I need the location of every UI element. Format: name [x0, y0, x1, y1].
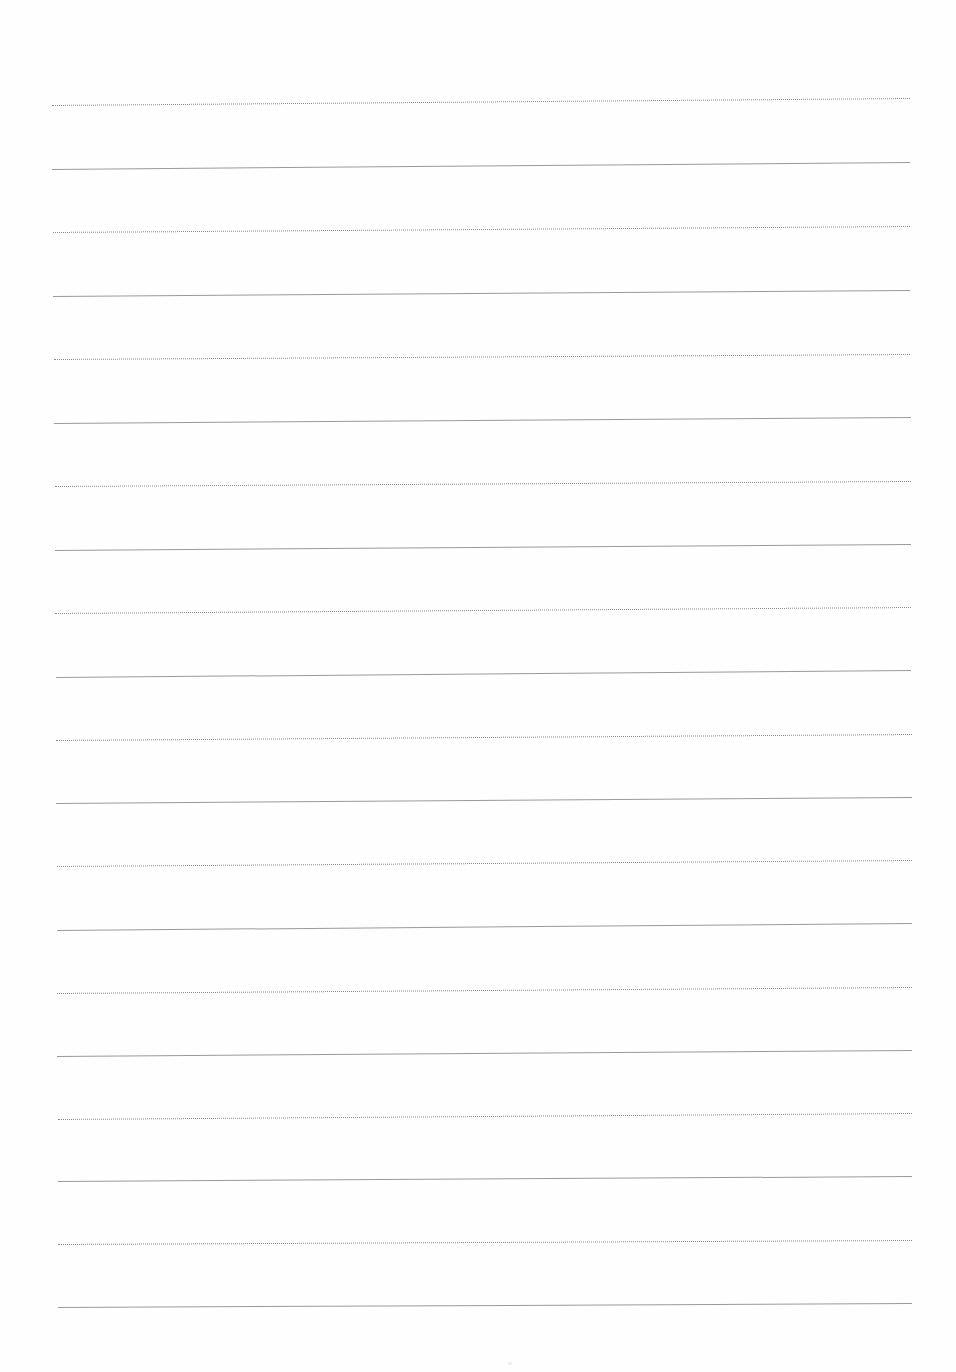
- paper-speck: [508, 1362, 512, 1365]
- dotted-ruled-line: [55, 607, 911, 614]
- solid-ruled-line: [56, 797, 912, 804]
- lined-paper-page: [0, 0, 956, 1372]
- solid-ruled-line: [58, 1176, 912, 1182]
- dotted-ruled-line: [57, 987, 912, 994]
- solid-ruled-line: [53, 290, 910, 297]
- solid-ruled-line: [55, 544, 911, 551]
- solid-ruled-line: [52, 162, 910, 170]
- dotted-ruled-line: [52, 98, 910, 106]
- solid-ruled-line: [58, 1303, 912, 1308]
- dotted-ruled-line: [56, 734, 912, 741]
- dotted-ruled-line: [53, 226, 910, 233]
- solid-ruled-line: [56, 670, 911, 678]
- dotted-ruled-line: [58, 1113, 912, 1120]
- dotted-ruled-line: [55, 481, 911, 487]
- dotted-ruled-line: [58, 1240, 912, 1245]
- solid-ruled-line: [54, 417, 911, 424]
- solid-ruled-line: [57, 923, 912, 931]
- dotted-ruled-line: [57, 860, 912, 867]
- dotted-ruled-line: [54, 354, 910, 360]
- solid-ruled-line: [57, 1050, 912, 1057]
